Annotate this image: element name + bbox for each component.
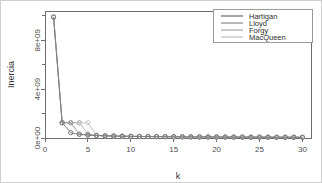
y-tick-label: 4e+09 — [33, 77, 42, 100]
x-tick-label: 20 — [212, 145, 221, 154]
y-axis-title: Inercia — [6, 61, 16, 88]
x-tick-label: 0 — [43, 145, 48, 154]
y-tick-label: 8e+09 — [33, 29, 42, 52]
x-tick-label: 30 — [298, 145, 307, 154]
x-tick-label: 15 — [169, 145, 178, 154]
elbow-plot: 0e+004e+098e+09051015202530kInerciaHarti… — [1, 1, 322, 183]
x-tick-label: 10 — [126, 145, 135, 154]
x-axis-title: k — [176, 171, 181, 181]
x-tick-label: 25 — [255, 145, 264, 154]
y-tick-label: 0e+00 — [33, 126, 42, 149]
chart-figure: 0e+004e+098e+09051015202530kInerciaHarti… — [0, 0, 322, 183]
x-tick-label: 5 — [86, 145, 91, 154]
legend-label-macqueen: MacQueen — [249, 33, 286, 42]
